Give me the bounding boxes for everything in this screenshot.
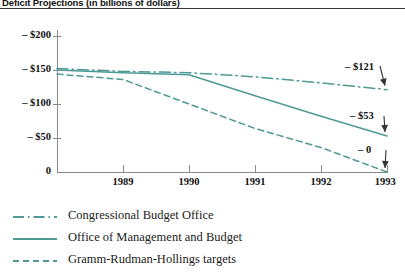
legend-label-grh: Gramm-Rudman-Hollings targets	[68, 252, 236, 267]
legend-swatch-dash-dot-icon	[13, 216, 57, 218]
deficit-projections-chart: Deficit Projections (in billions of doll…	[0, 0, 405, 276]
series-line	[57, 74, 387, 172]
legend-item-grh: Gramm-Rudman-Hollings targets	[0, 250, 405, 272]
legend-item-omb: Office of Management and Budget	[0, 228, 405, 250]
annotation-arrow-head-icon	[381, 125, 388, 132]
legend-label-cbo: Congressional Budget Office	[68, 208, 214, 223]
annotation-omb-value: – $53	[350, 110, 374, 121]
plot-area: – $200 – $150 – $100 – $50 0 1989 1990 1…	[0, 0, 405, 200]
series-line	[57, 70, 387, 136]
legend-item-cbo: Congressional Budget Office	[0, 206, 405, 228]
annotation-arrow-head-icon	[382, 161, 389, 168]
legend-swatch-solid-icon	[13, 238, 57, 240]
legend-swatch-dashed-icon	[13, 260, 57, 262]
legend-label-omb: Office of Management and Budget	[68, 230, 242, 245]
annotation-arrow-head-icon	[380, 78, 387, 86]
annotation-grh-value: – 0	[358, 144, 371, 155]
series-canvas	[0, 0, 405, 200]
annotation-cbo-value: – $121	[345, 61, 374, 72]
chart-legend: Congressional Budget Office Office of Ma…	[0, 206, 405, 272]
